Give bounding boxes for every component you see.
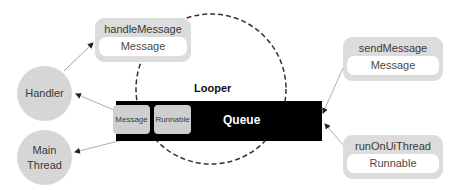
looper-label: Looper (194, 82, 231, 94)
edge-handler-to-handlemessage (64, 43, 93, 71)
main-thread-label-line1: Main (33, 143, 57, 158)
queue-label: Queue (223, 113, 260, 127)
handle-message-title: handleMessage (99, 21, 187, 37)
send-message-arg: Message (347, 56, 439, 75)
run-on-ui-thread-box: runOnUiThread Runnable (343, 135, 443, 179)
queue-item-runnable: Runnable (154, 105, 191, 134)
handler-label: Handler (25, 86, 64, 101)
send-message-box: sendMessage Message (343, 37, 443, 81)
handle-message-box: handleMessage Message (95, 18, 191, 62)
looper-diagram: Handler Main Thread handleMessage Messag… (0, 0, 459, 190)
handler-node: Handler (17, 66, 72, 121)
edge-message-to-handler (76, 94, 114, 110)
run-on-ui-thread-arg: Runnable (347, 154, 439, 173)
main-thread-node: Main Thread (17, 130, 72, 185)
handle-message-arg: Message (99, 37, 187, 56)
queue-item-message: Message (113, 105, 150, 134)
main-thread-label-line2: Thread (27, 158, 62, 173)
send-message-title: sendMessage (347, 40, 439, 56)
run-on-ui-thread-title: runOnUiThread (347, 138, 439, 154)
edge-sendmessage-to-queue (323, 68, 343, 113)
